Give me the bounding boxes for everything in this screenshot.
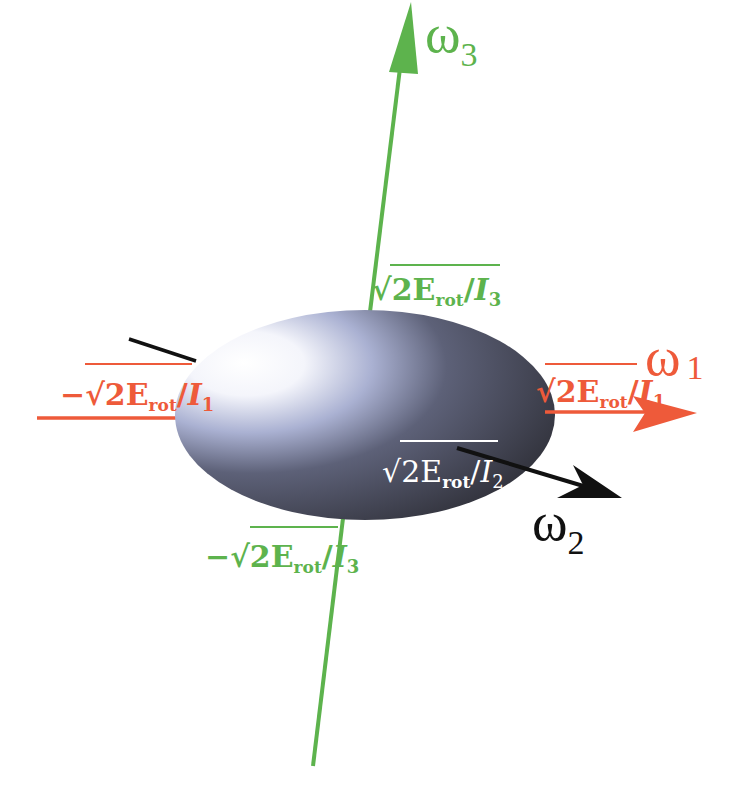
omega3-positive-intercept: √2Erot/I3 [372, 265, 501, 310]
omega1-label: ω1 [645, 327, 704, 387]
omega3-negative-intercept: −√2Erot/I3 [205, 527, 359, 577]
omega2-label: ω2 [532, 492, 585, 561]
svg-text:−√2Erot/I3: −√2Erot/I3 [205, 539, 359, 577]
omega3-arrowhead-icon [389, 2, 418, 74]
omega2-axis-negative [129, 339, 196, 361]
energy-ellipsoid-diagram: ω3 ω1 ω2 √2Erot/I3 −√2Erot/I3 −√2Erot/I1… [0, 0, 740, 797]
figure-caption-cutoff [0, 784, 740, 797]
omega1-negative-intercept: −√2Erot/I1 [60, 364, 214, 415]
svg-text:−√2Erot/I1: −√2Erot/I1 [60, 377, 214, 415]
svg-text:√2Erot/I1: √2Erot/I1 [536, 374, 665, 412]
omega3-label: ω3 [425, 4, 478, 73]
svg-text:√2Erot/I3: √2Erot/I3 [372, 272, 501, 310]
